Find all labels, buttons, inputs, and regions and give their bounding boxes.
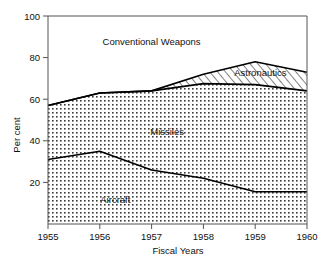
- series-label-aircraft: Aircraft: [100, 194, 130, 205]
- y-tick-label: 40: [29, 135, 40, 146]
- series-label-astronautics: Astronautics: [234, 67, 287, 78]
- stacked-area-chart: 20406080100195519561957195819591960 Conv…: [0, 0, 332, 262]
- chart-container: 20406080100195519561957195819591960 Conv…: [0, 0, 332, 262]
- y-tick-label: 20: [29, 177, 40, 188]
- y-tick-label: 100: [24, 11, 40, 22]
- series-label-conventional-weapons: Conventional Weapons: [103, 36, 201, 47]
- x-tick-label: 1960: [296, 231, 317, 242]
- x-tick-label: 1956: [89, 231, 110, 242]
- series-label-missiles: Missiles: [150, 126, 184, 137]
- plot-area: [48, 16, 307, 224]
- y-tick-label: 60: [29, 94, 40, 105]
- x-tick-label: 1957: [141, 231, 162, 242]
- y-axis-title: Per cent: [11, 117, 22, 153]
- x-tick-label: 1958: [193, 231, 214, 242]
- x-tick-label: 1959: [245, 231, 266, 242]
- y-tick-label: 80: [29, 52, 40, 63]
- x-axis-title: Fiscal Years: [152, 245, 203, 256]
- x-tick-label: 1955: [37, 231, 58, 242]
